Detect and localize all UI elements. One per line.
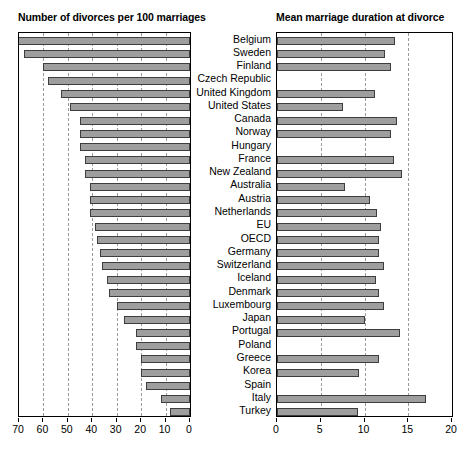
bar-norway: [80, 130, 190, 138]
category-label-japan: Japan: [242, 311, 271, 324]
axis-tick: [189, 418, 190, 422]
category-label-denmark: Denmark: [228, 285, 271, 298]
category-label-sweden: Sweden: [233, 46, 271, 59]
bar-japan: [124, 316, 190, 324]
bar-germany: [277, 249, 379, 257]
bar-row: [277, 313, 452, 326]
bar-row: [19, 180, 190, 193]
right-chart-title: Mean marriage duration at divorce: [276, 11, 444, 23]
bar-row: [19, 234, 190, 247]
axis-tick-label: 10: [358, 423, 370, 435]
bar-belgium: [277, 37, 395, 45]
category-label-belgium: Belgium: [233, 33, 271, 46]
category-label-eu: EU: [256, 218, 271, 231]
bar-row: [19, 141, 190, 154]
axis-tick-label: 0: [186, 423, 192, 435]
category-label-italy: Italy: [252, 391, 271, 404]
bar-denmark: [277, 289, 379, 297]
bar-portugal: [277, 329, 400, 337]
bar-row: [277, 74, 452, 87]
bar-korea: [277, 369, 359, 377]
left-chart-bars: [19, 33, 190, 416]
bar-row: [19, 194, 190, 207]
axis-tick-label: 10: [159, 423, 171, 435]
category-label-canada: Canada: [234, 112, 271, 125]
axis-tick: [42, 418, 43, 422]
bar-luxembourg: [277, 302, 384, 310]
bar-row: [19, 340, 190, 353]
bar-row: [277, 287, 452, 300]
bar-row: [277, 61, 452, 74]
bar-denmark: [109, 289, 190, 297]
bar-row: [277, 167, 452, 180]
bar-eu: [95, 223, 190, 231]
bar-switzerland: [102, 262, 190, 270]
bar-row: [277, 260, 452, 273]
category-label-luxembourg: Luxembourg: [213, 298, 271, 311]
bar-row: [19, 287, 190, 300]
bar-greece: [141, 355, 190, 363]
category-label-iceland: Iceland: [237, 271, 271, 284]
bar-finland: [277, 63, 391, 71]
bar-row: [277, 220, 452, 233]
bar-row: [19, 273, 190, 286]
bar-row: [19, 167, 190, 180]
bar-row: [277, 353, 452, 366]
category-label-united-kingdom: United Kingdom: [196, 86, 271, 99]
bar-row: [277, 300, 452, 313]
bar-italy: [277, 395, 426, 403]
bar-row: [277, 380, 452, 393]
axis-tick-label: 30: [110, 423, 122, 435]
category-axis-labels: BelgiumSwedenFinlandCzech RepublicUnited…: [191, 32, 276, 417]
bar-france: [85, 156, 190, 164]
axis-tick-label: 50: [61, 423, 73, 435]
bar-row: [277, 406, 452, 417]
axis-tick: [67, 418, 68, 422]
bar-poland: [136, 342, 190, 350]
axis-tick: [18, 418, 19, 422]
bar-row: [19, 127, 190, 140]
bar-row: [19, 154, 190, 167]
bar-sweden: [24, 50, 190, 58]
bar-turkey: [277, 408, 358, 416]
bar-united-states: [277, 103, 343, 111]
bar-australia: [277, 183, 345, 191]
bar-row: [19, 207, 190, 220]
bar-hungary: [80, 143, 190, 151]
axis-tick: [140, 418, 141, 422]
category-label-spain: Spain: [244, 378, 271, 391]
bar-netherlands: [277, 209, 377, 217]
axis-tick-label: 0: [273, 423, 279, 435]
bar-row: [277, 366, 452, 379]
bar-france: [277, 156, 394, 164]
bar-row: [277, 393, 452, 406]
bar-row: [19, 220, 190, 233]
bar-norway: [277, 130, 391, 138]
bar-row: [277, 207, 452, 220]
bar-luxembourg: [117, 302, 190, 310]
bar-row: [19, 101, 190, 114]
bar-row: [19, 353, 190, 366]
category-label-greece: Greece: [237, 351, 271, 364]
bar-row: [19, 247, 190, 260]
axis-tick-label: 60: [37, 423, 49, 435]
bar-row: [19, 260, 190, 273]
bar-oecd: [97, 236, 190, 244]
right-chart-bars: [277, 33, 452, 416]
bar-row: [277, 340, 452, 353]
bar-united-kingdom: [277, 90, 375, 98]
category-label-portugal: Portugal: [232, 324, 271, 337]
bar-finland: [43, 63, 190, 71]
category-label-norway: Norway: [235, 125, 271, 138]
bar-row: [19, 313, 190, 326]
axis-tick: [364, 418, 365, 422]
bar-korea: [141, 369, 190, 377]
bar-canada: [80, 117, 190, 125]
category-label-australia: Australia: [230, 178, 271, 191]
bar-row: [19, 326, 190, 339]
category-label-korea: Korea: [243, 364, 271, 377]
bar-italy: [161, 395, 190, 403]
bar-iceland: [277, 276, 376, 284]
bar-row: [19, 366, 190, 379]
bar-greece: [277, 355, 379, 363]
